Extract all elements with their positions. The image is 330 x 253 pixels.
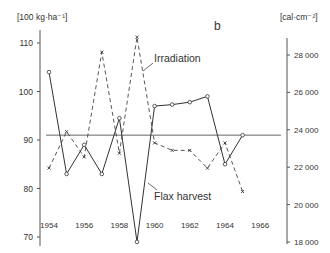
x-tick-label: 1956 bbox=[75, 221, 93, 230]
x-tick-label: 1962 bbox=[181, 221, 199, 230]
chart: 708090100110 18 00020 00022 00024 00026 … bbox=[0, 0, 330, 253]
flax-harvest-leader-line bbox=[148, 183, 157, 190]
left-tick-label: 70 bbox=[24, 232, 34, 242]
circle-marker-icon bbox=[241, 133, 245, 137]
left-tick-label: 90 bbox=[24, 135, 34, 145]
circle-marker-icon bbox=[223, 162, 227, 166]
right-tick-label: 22 000 bbox=[294, 163, 319, 172]
circle-marker-icon bbox=[170, 103, 174, 107]
circle-marker-icon bbox=[153, 104, 157, 108]
panel-label: b bbox=[214, 19, 221, 33]
circle-marker-icon bbox=[100, 172, 104, 176]
left-axis-ticks: 708090100110 bbox=[19, 38, 40, 242]
flax-harvest-label: Flax harvest bbox=[154, 190, 211, 202]
circle-marker-icon bbox=[135, 240, 139, 244]
right-axis-unit-label: [cal·cm⁻²] bbox=[280, 12, 318, 22]
circle-marker-icon bbox=[65, 172, 69, 176]
flax-harvest-line bbox=[49, 72, 243, 242]
circle-marker-icon bbox=[47, 70, 51, 74]
x-marker-icon bbox=[48, 167, 51, 170]
circle-marker-icon bbox=[206, 95, 210, 99]
x-axis-tick-labels: 1954195619581960196219641966 bbox=[40, 221, 270, 230]
x-marker-icon bbox=[65, 130, 68, 133]
x-tick-label: 1966 bbox=[251, 221, 269, 230]
x-marker-icon bbox=[206, 167, 209, 170]
x-marker-icon bbox=[136, 36, 139, 39]
right-tick-label: 18 000 bbox=[294, 238, 319, 247]
right-axis-ticks: 18 00020 00022 00024 00026 00028 000 bbox=[287, 51, 319, 247]
left-tick-label: 100 bbox=[19, 87, 33, 97]
circle-marker-icon bbox=[82, 143, 86, 147]
right-tick-label: 28 000 bbox=[294, 51, 319, 60]
x-marker-icon bbox=[171, 149, 174, 152]
irradiation-markers bbox=[48, 36, 245, 193]
irradiation-label: Irradiation bbox=[154, 52, 201, 64]
left-tick-label: 80 bbox=[24, 184, 34, 194]
irradiation-leader-line bbox=[143, 63, 153, 71]
left-tick-label: 110 bbox=[19, 38, 33, 48]
right-tick-label: 26 000 bbox=[294, 88, 319, 97]
x-tick-label: 1960 bbox=[146, 221, 164, 230]
x-tick-label: 1964 bbox=[216, 221, 234, 230]
irradiation-line bbox=[49, 37, 243, 191]
right-tick-label: 24 000 bbox=[294, 126, 319, 135]
x-tick-label: 1954 bbox=[40, 221, 58, 230]
circle-marker-icon bbox=[188, 100, 192, 104]
left-axis-unit-label: [100 kg·ha⁻¹] bbox=[17, 12, 67, 22]
right-tick-label: 20 000 bbox=[294, 201, 319, 210]
x-tick-label: 1958 bbox=[111, 221, 129, 230]
circle-marker-icon bbox=[118, 116, 122, 120]
